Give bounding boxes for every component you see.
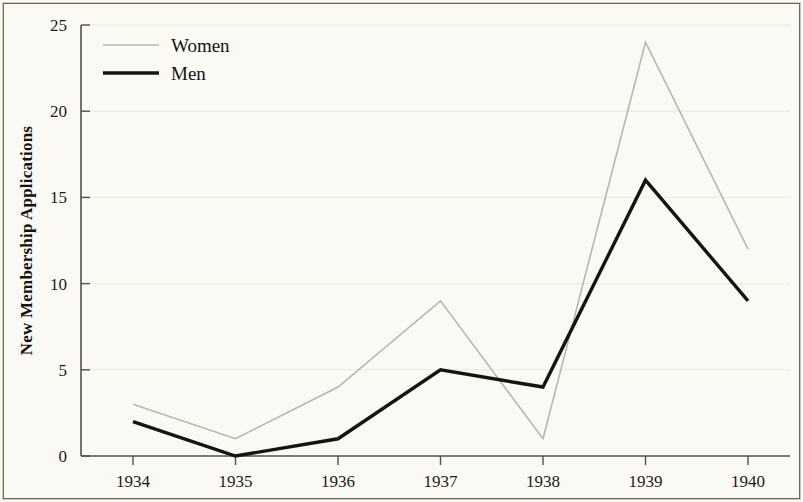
series-line-men (133, 180, 748, 456)
x-tick-label-1937: 1937 (424, 472, 459, 491)
y-axis-title: New Membership Applications (17, 126, 36, 355)
x-tick-label-1935: 1935 (219, 472, 253, 491)
x-tick-label-1940: 1940 (731, 472, 765, 491)
series-line-women (133, 42, 748, 439)
legend-label-men: Men (171, 63, 206, 84)
line-chart: 05101520251934193519361937193819391940Ne… (0, 0, 803, 502)
y-tick-label-20: 20 (50, 102, 67, 121)
legend-label-women: Women (171, 35, 230, 56)
y-tick-label-0: 0 (59, 447, 68, 466)
x-tick-label-1936: 1936 (321, 472, 355, 491)
x-tick-label-1934: 1934 (116, 472, 151, 491)
y-tick-label-5: 5 (59, 361, 68, 380)
y-tick-label-25: 25 (50, 16, 67, 35)
x-tick-label-1938: 1938 (526, 472, 560, 491)
y-tick-label-15: 15 (50, 188, 67, 207)
chart-page: 05101520251934193519361937193819391940Ne… (0, 0, 803, 502)
y-tick-label-10: 10 (50, 275, 67, 294)
x-tick-label-1939: 1939 (629, 472, 663, 491)
